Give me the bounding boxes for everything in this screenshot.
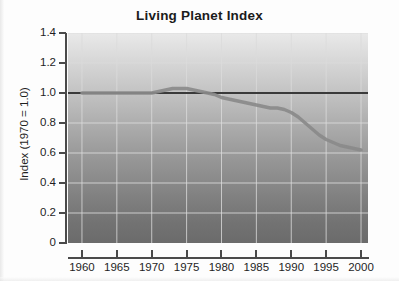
y-axis-tick [59, 92, 66, 94]
x-axis-tick [360, 250, 362, 258]
y-axis-tick-label: 0.6 [40, 147, 56, 158]
x-axis-tick [325, 250, 327, 258]
y-axis-tick-label: 1.2 [40, 57, 56, 68]
vertical-gridlines [82, 33, 361, 243]
y-axis-title: Index (1970 = 1.0) [18, 54, 30, 214]
y-axis-tick-label: 0 [50, 237, 56, 248]
chart-figure: Living Planet Index Index (1970 = 1.0) 0… [0, 0, 399, 281]
plot-canvas [68, 33, 368, 243]
data-series-group [68, 89, 368, 151]
x-axis-tick [186, 250, 188, 258]
y-axis-tick [59, 32, 66, 34]
y-axis-tick-label: 1.0 [40, 87, 56, 98]
x-axis-tick [220, 250, 222, 258]
x-axis-tick [290, 250, 292, 258]
y-axis-tick [59, 242, 66, 244]
chart-title: Living Planet Index [0, 8, 399, 23]
x-axis-line [68, 257, 369, 259]
y-axis-tick [59, 182, 66, 184]
y-axis-tick-label: 0.2 [40, 207, 56, 218]
y-axis-tick-label: 0.4 [40, 177, 56, 188]
scan-edge-artifact-bottom [0, 277, 399, 281]
x-axis-tick [151, 250, 153, 258]
y-axis-tick [59, 122, 66, 124]
y-axis-tick-label: 0.8 [40, 117, 56, 128]
x-axis-tick-label: 2000 [338, 261, 384, 273]
y-axis-tick [59, 152, 66, 154]
x-axis-tick [81, 250, 83, 258]
horizontal-gridlines [68, 33, 368, 213]
plot-area [68, 33, 368, 243]
scan-edge-artifact-left [0, 0, 4, 281]
y-axis-tick-label: 1.4 [40, 27, 56, 38]
y-axis-tick [59, 212, 66, 214]
y-axis-tick [59, 62, 66, 64]
x-axis-tick [255, 250, 257, 258]
x-axis-tick [116, 250, 118, 258]
